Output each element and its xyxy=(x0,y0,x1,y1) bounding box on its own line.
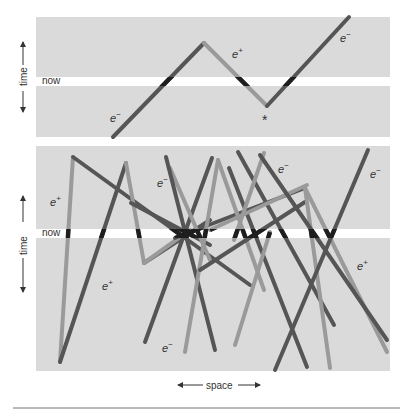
top-panel: now e−e+e− * xyxy=(36,17,390,137)
spacetime-diagram: now e−e+e− * time now e+e−e−e−e+e+e− tim… xyxy=(0,0,414,414)
top-now-label: now xyxy=(42,75,61,86)
top-time-label: time xyxy=(18,67,29,86)
bottom-time-axis: time xyxy=(18,196,29,292)
bottom-now-label: now xyxy=(42,227,61,238)
pair-creation-marker: * xyxy=(262,112,268,128)
bottom-panel: now e+e−e−e−e+e+e− xyxy=(36,146,390,371)
space-axis: space xyxy=(178,380,260,391)
top-time-axis: time xyxy=(18,42,29,112)
top-now-band xyxy=(36,77,390,86)
space-label: space xyxy=(206,380,233,391)
bottom-time-label: time xyxy=(18,236,29,255)
